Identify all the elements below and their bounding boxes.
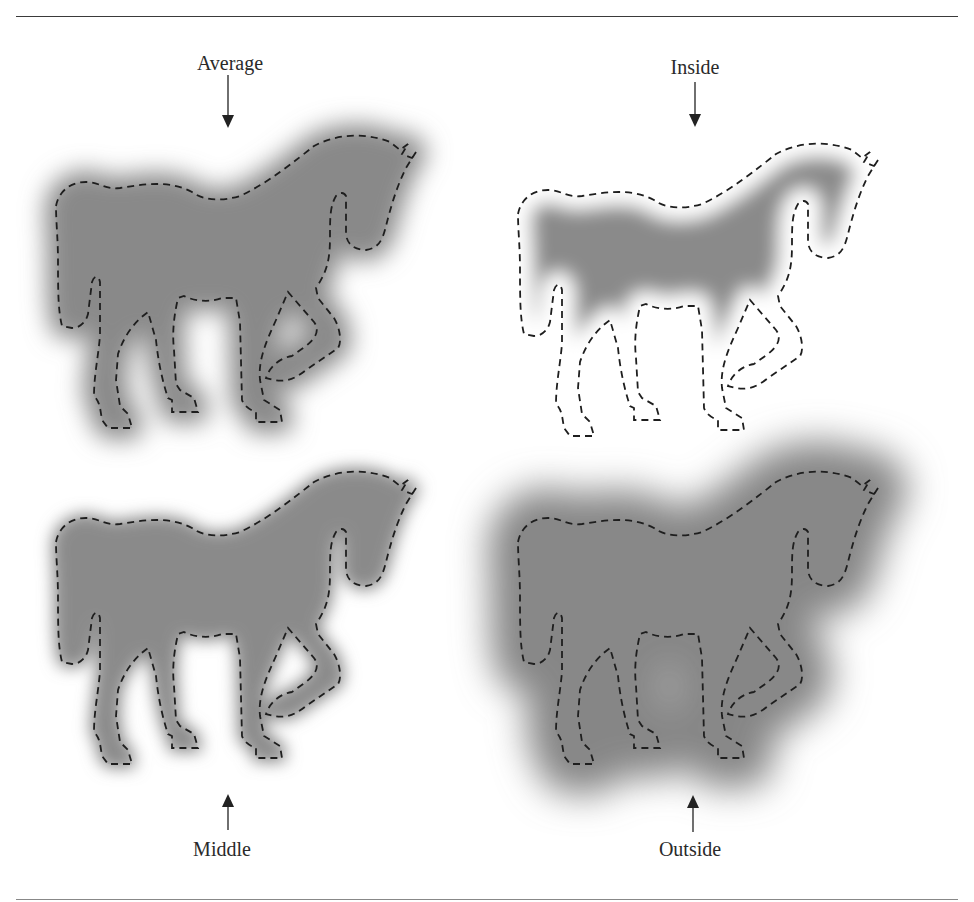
arrow-up-middle [222, 794, 234, 830]
panel-outside [518, 472, 878, 764]
arrow-down-inside [689, 82, 701, 127]
label-inside: Inside [671, 56, 720, 78]
label-outside: Outside [659, 838, 721, 860]
panel-average [56, 136, 416, 428]
panel-inside [486, 98, 906, 458]
panel-middle [56, 472, 416, 764]
bottom-rule [16, 899, 958, 900]
horse-figure [0, 0, 974, 902]
label-middle: Middle [193, 838, 251, 860]
arrow-down-average [222, 75, 234, 128]
label-average: Average [197, 52, 263, 74]
arrow-up-outside [687, 795, 699, 832]
